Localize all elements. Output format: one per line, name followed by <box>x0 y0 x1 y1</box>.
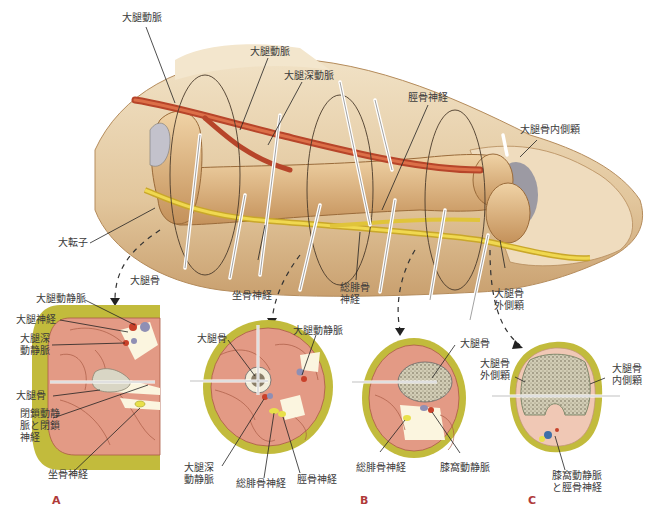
label-c-popliteal-tibial: 膝窩動静脈と脛骨神経 <box>552 470 608 494</box>
label-deep-femoral-artery: 大腿深動脈 <box>284 70 334 82</box>
thigh-anatomy-figure: 大腿動脈 大腿動脈 大腿深動脈 脛骨神経 大腿骨内側顆 大転子 大腿骨 坐骨神経… <box>0 0 658 524</box>
label-c-medial-condyle: 大腿骨内側顆 <box>612 363 646 387</box>
label-a-femoral-vessels: 大腿動静脈 <box>36 293 86 305</box>
label-tibial-nerve: 脛骨神経 <box>408 92 448 104</box>
label-b2-popliteal-vessels: 膝窩動静脈 <box>440 462 490 474</box>
label-b2-common-peroneal-nerve: 総腓骨神経 <box>356 462 406 474</box>
label-common-peroneal-nerve: 総腓骨神経 <box>340 282 372 306</box>
label-b1-femur: 大腿骨 <box>197 333 227 345</box>
panel-letter-a: A <box>52 494 61 507</box>
panel-letter-b: B <box>360 494 368 507</box>
panel-letter-c: C <box>528 494 536 507</box>
cross-section-b2 <box>352 338 466 458</box>
label-b1-tibial-nerve: 脛骨神経 <box>297 474 337 486</box>
label-b2-femur: 大腿骨 <box>460 338 490 350</box>
label-a-femoral-nerve: 大腿神経 <box>16 314 56 326</box>
label-a-femur: 大腿骨 <box>16 390 46 402</box>
label-greater-trochanter: 大転子 <box>58 237 88 249</box>
label-c-lateral-condyle: 大腿骨外側顆 <box>480 358 512 382</box>
label-a-obturator: 閉鎖動静脈と閉鎖神経 <box>20 408 62 444</box>
label-femur-top: 大腿骨 <box>130 275 160 287</box>
label-b1-deep-femoral-vessels: 大腿深動静脈 <box>184 462 216 486</box>
label-lateral-condyle: 大腿骨外側顆 <box>494 288 526 312</box>
label-femoral-artery-top: 大腿動脈 <box>122 12 162 24</box>
label-sciatic-nerve: 坐骨神経 <box>232 290 272 302</box>
label-b1-femoral-vessels: 大腿動静脈 <box>293 325 343 337</box>
label-medial-condyle: 大腿骨内側顆 <box>520 124 580 136</box>
label-b1-common-peroneal-nerve: 総腓骨神経 <box>236 478 286 490</box>
label-a-deep-femoral-vessels: 大腿深動静脈 <box>20 333 52 357</box>
label-a-sciatic-nerve: 坐骨神経 <box>48 469 88 481</box>
thigh-longitudinal-view <box>95 44 643 320</box>
label-femoral-artery: 大腿動脈 <box>250 46 290 58</box>
